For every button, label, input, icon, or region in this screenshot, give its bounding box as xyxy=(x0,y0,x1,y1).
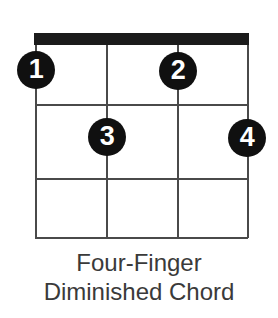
fret-line-3 xyxy=(35,237,248,239)
caption-line-1: Four-Finger xyxy=(0,248,278,277)
finger-dot-1: 1 xyxy=(17,51,55,89)
caption-line-2: Diminished Chord xyxy=(0,277,278,306)
fretboard: 1 2 3 4 xyxy=(0,0,278,250)
finger-dot-2: 2 xyxy=(159,52,197,90)
fret-line-1 xyxy=(35,104,248,106)
fret-line-2 xyxy=(35,178,248,180)
nut-bar xyxy=(34,33,249,45)
finger-dot-3: 3 xyxy=(88,118,126,156)
chord-diagram-root: 1 2 3 4 Four-Finger Diminished Chord xyxy=(0,0,278,318)
finger-dot-4: 4 xyxy=(228,119,266,157)
diagram-caption: Four-Finger Diminished Chord xyxy=(0,248,278,306)
